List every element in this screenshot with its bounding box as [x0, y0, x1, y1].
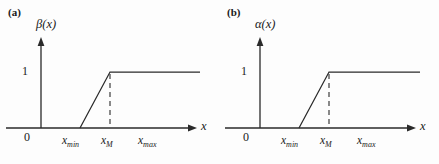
y-tick-label-one: 1 [22, 64, 28, 79]
x-tick-sub: max [143, 140, 156, 149]
x-tick-label-xm: xM [320, 134, 332, 149]
x-tick-label-xmax: xmax [138, 134, 156, 149]
figure-panel-a: (a) β(x) 1 0 x xmin xM xmax [0, 0, 219, 164]
x-tick-sub: min [67, 140, 79, 149]
y-tick-label-one: 1 [241, 64, 247, 79]
x-tick-sub: M [106, 140, 113, 149]
x-axis-arrow-icon [188, 124, 197, 131]
x-tick-label-xmax: xmax [357, 134, 375, 149]
x-tick-label-xmin: xmin [62, 134, 79, 149]
x-tick-label-xmin: xmin [281, 134, 298, 149]
origin-label-zero: 0 [243, 130, 249, 145]
figure-panel-b: (b) α(x) 1 0 x xmin xM xmax [219, 0, 438, 164]
x-tick-label-xm: xM [101, 134, 113, 149]
x-axis-label: x [201, 119, 207, 134]
x-axis-arrow-icon [407, 124, 416, 131]
x-tick-sub: min [286, 140, 298, 149]
x-tick-sub: M [325, 140, 332, 149]
y-axis-arrow-icon [38, 37, 45, 46]
origin-label-zero: 0 [24, 130, 30, 145]
x-tick-sub: max [362, 140, 375, 149]
membership-curve [80, 72, 200, 128]
y-axis-arrow-icon [257, 37, 264, 46]
membership-curve [299, 72, 420, 128]
x-axis-label: x [420, 119, 426, 134]
